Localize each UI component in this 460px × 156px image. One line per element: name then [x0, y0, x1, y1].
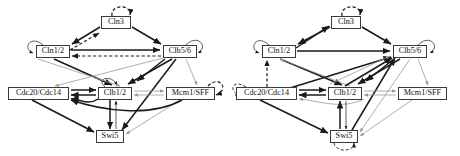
- node-clb56[interactable]: Clb5/6: [393, 45, 427, 58]
- edge-clb56-to-cdc: [55, 58, 163, 86]
- node-mcm1-sff[interactable]: Mcm1/SFF: [398, 87, 447, 100]
- node-label: Cdc20/Cdc14: [244, 89, 289, 97]
- figure-root: Cln3 Cln1/2 Clb5/6 Cdc20/Cdc14 Clb1/2 Mc…: [0, 0, 460, 156]
- node-label: Mcm1/SFF: [404, 89, 441, 97]
- edge-cdc-to-swi5: [260, 100, 328, 133]
- node-label: Clb5/6: [399, 47, 421, 55]
- selfloop-swi5: [334, 143, 354, 150]
- selfloop-cln3: [112, 7, 130, 16]
- node-mcm1-sff[interactable]: Mcm1/SFF: [166, 87, 215, 100]
- node-label: Swi5: [102, 132, 119, 140]
- node-clb12[interactable]: Clb1/2: [328, 87, 362, 100]
- node-label: Clb1/2: [334, 89, 356, 97]
- node-label: Mcm1/SFF: [172, 89, 209, 97]
- node-cln3[interactable]: Cln3: [101, 16, 131, 29]
- node-label: Clb5/6: [169, 47, 191, 55]
- node-label: Cln3: [108, 18, 124, 26]
- edge-cln12-to-clb12: [54, 59, 112, 85]
- node-label: Cln3: [338, 18, 354, 26]
- node-clb12[interactable]: Clb1/2: [98, 87, 132, 100]
- node-cdc20-cdc14[interactable]: Cdc20/Cdc14: [236, 87, 297, 100]
- edge-cln3-to-clb56: [132, 27, 161, 44]
- node-cln3[interactable]: Cln3: [331, 16, 361, 29]
- edge-clb56-to-clb12-b: [366, 59, 394, 81]
- edge-clb56-to-mcm1: [186, 59, 197, 85]
- node-cln12[interactable]: Cln1/2: [36, 45, 70, 58]
- edge-clb56-to-clb12-b: [137, 59, 165, 81]
- node-label: Swi5: [336, 132, 353, 140]
- node-label: Clb1/2: [104, 89, 126, 97]
- edge-cln12-to-cln3: [296, 26, 329, 48]
- edge-mcm1-to-swi5: [360, 100, 412, 136]
- edge-clb12-to-clb56: [345, 58, 392, 86]
- network-diagram-left: Cln3 Cln1/2 Clb5/6 Cdc20/Cdc14 Clb1/2 Mc…: [0, 0, 230, 156]
- node-label: Cdc20/Cdc14: [16, 89, 61, 97]
- edge-clb56-to-mcm1: [418, 59, 428, 85]
- network-diagram-right: Cln3 Cln1/2 Clb5/6 Cdc20/Cdc14 Clb1/2 Mc…: [230, 0, 460, 156]
- node-swi5[interactable]: Swi5: [96, 130, 124, 143]
- node-cdc20-cdc14[interactable]: Cdc20/Cdc14: [8, 87, 69, 100]
- node-label: Cln1/2: [42, 47, 64, 55]
- node-cln12[interactable]: Cln1/2: [262, 45, 296, 58]
- node-label: Cln1/2: [268, 47, 290, 55]
- selfloop-cln3: [342, 7, 360, 16]
- edge-cln3-to-clb56: [362, 27, 391, 44]
- node-clb56[interactable]: Clb5/6: [163, 45, 197, 58]
- node-swi5[interactable]: Swi5: [330, 130, 358, 143]
